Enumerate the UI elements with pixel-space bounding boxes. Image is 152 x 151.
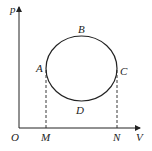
x-axis-label: V (136, 131, 144, 143)
cycle-ellipse (46, 36, 117, 101)
point-a-label: A (35, 62, 43, 74)
marker-m-label: M (40, 131, 51, 143)
y-axis-label: p (9, 3, 16, 15)
point-b-label: B (78, 23, 85, 35)
marker-n-label: N (112, 131, 121, 143)
point-c-label: C (120, 65, 128, 77)
origin-label: O (11, 131, 19, 143)
pv-diagram: p V O A B C D M N (0, 0, 152, 151)
point-d-label: D (75, 104, 84, 116)
